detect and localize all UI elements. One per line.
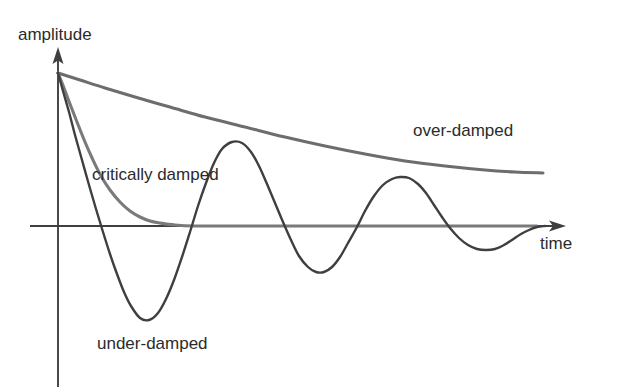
y-axis-label: amplitude	[18, 25, 92, 44]
damped-oscillation-diagram: amplitude time over-damped critically da…	[0, 0, 618, 387]
curve-under-damped	[58, 73, 545, 320]
labels-group: amplitude time over-damped critically da…	[18, 25, 572, 353]
x-axis-label: time	[540, 234, 572, 253]
curve-label-under-damped: under-damped	[97, 334, 208, 353]
curve-label-critically-damped: critically damped	[92, 165, 219, 184]
curves-group	[58, 73, 545, 320]
curve-label-over-damped: over-damped	[413, 121, 513, 140]
